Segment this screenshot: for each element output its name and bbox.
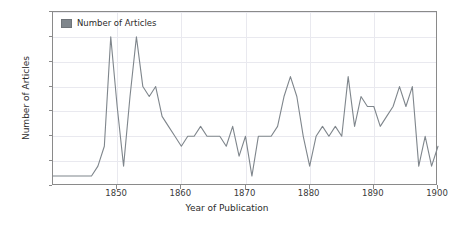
line-series-number-of-articles [53, 12, 438, 186]
x-tick-label: 1900 [426, 188, 448, 198]
x-tick-label: 1860 [170, 188, 192, 198]
chart-figure: Number of Articles 0.02.55.07.510.012.51… [0, 0, 454, 229]
x-tick-mark [437, 185, 438, 189]
y-tick-mark [49, 185, 53, 186]
legend-label: Number of Articles [77, 18, 156, 28]
y-tick-mark [49, 11, 53, 12]
legend-color-swatch [61, 19, 72, 28]
x-tick-label: 1870 [234, 188, 256, 198]
y-tick-mark [49, 36, 53, 37]
y-tick-mark [49, 135, 53, 136]
x-axis-label: Year of Publication [0, 203, 454, 213]
x-tick-label: 1880 [298, 188, 320, 198]
x-tick-mark [180, 185, 181, 189]
y-tick-mark [49, 86, 53, 87]
chart-legend: Number of Articles [58, 17, 159, 29]
x-tick-mark [373, 185, 374, 189]
x-tick-mark [116, 185, 117, 189]
plot-area: Number of Articles [52, 11, 437, 185]
x-tick-label: 1850 [105, 188, 127, 198]
y-axis-label: Number of Articles [21, 38, 31, 158]
y-tick-mark [49, 61, 53, 62]
x-tick-mark [309, 185, 310, 189]
y-tick-mark [49, 110, 53, 111]
y-tick-mark [49, 160, 53, 161]
x-tick-label: 1890 [362, 188, 384, 198]
x-tick-mark [245, 185, 246, 189]
